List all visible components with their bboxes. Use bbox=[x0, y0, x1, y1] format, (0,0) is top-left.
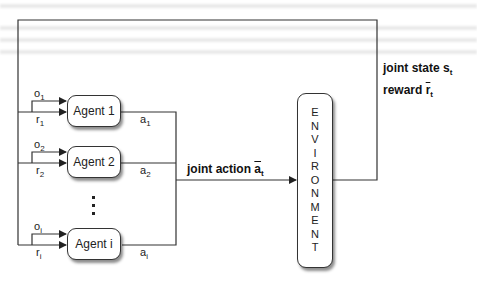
env-letter: M bbox=[310, 201, 319, 215]
act-sub: i bbox=[146, 252, 148, 261]
agent-label: Agent i bbox=[75, 237, 112, 251]
obs-label-1: o1 bbox=[34, 88, 45, 102]
rew-label-i: ri bbox=[36, 247, 41, 261]
joint-action-sub: t bbox=[261, 169, 264, 178]
env-letter: I bbox=[313, 147, 316, 161]
joint-action-label: joint action at bbox=[187, 163, 264, 178]
rew-sub: i bbox=[40, 252, 42, 261]
obs-label-i: oi bbox=[34, 221, 42, 235]
rew-sub: 1 bbox=[40, 119, 44, 128]
joint-state-text: joint state bbox=[383, 61, 443, 75]
rew-label-2: r2 bbox=[36, 165, 44, 179]
env-letter: N bbox=[311, 120, 319, 134]
agent-i-box: Agent i bbox=[67, 228, 121, 260]
act-label-i: ai bbox=[140, 247, 148, 261]
reward-label: reward rt bbox=[383, 84, 433, 99]
env-letter: E bbox=[311, 106, 318, 120]
joint-state-label: joint state st bbox=[383, 62, 452, 77]
env-letter: R bbox=[311, 160, 319, 174]
joint-action-text: joint action bbox=[187, 162, 254, 176]
rew-label-1: r1 bbox=[36, 114, 44, 128]
agent-label: Agent 1 bbox=[73, 104, 114, 118]
environment-box: E N V I R O N M E N T bbox=[297, 93, 333, 268]
env-letter: E bbox=[311, 214, 318, 228]
joint-state-symbol: s bbox=[443, 61, 450, 75]
agent-2-box: Agent 2 bbox=[67, 146, 121, 178]
rew-sub: 2 bbox=[40, 170, 44, 179]
env-letter: T bbox=[312, 241, 319, 255]
obs-sub: 2 bbox=[40, 144, 44, 153]
env-letter: V bbox=[311, 133, 318, 147]
obs-label-2: o2 bbox=[34, 139, 45, 153]
ellipsis-dots bbox=[92, 196, 95, 215]
reward-sub: t bbox=[430, 90, 433, 99]
obs-sub: 1 bbox=[40, 93, 44, 102]
env-letter: N bbox=[311, 187, 319, 201]
act-label-2: a2 bbox=[140, 165, 151, 179]
env-letter: N bbox=[311, 228, 319, 242]
obs-sub: i bbox=[40, 226, 42, 235]
agent-1-box: Agent 1 bbox=[67, 95, 121, 127]
reward-text: reward bbox=[383, 83, 426, 97]
act-label-1: a1 bbox=[140, 114, 151, 128]
act-sub: 2 bbox=[146, 170, 150, 179]
env-letter: O bbox=[311, 174, 320, 188]
agent-label: Agent 2 bbox=[73, 155, 114, 169]
joint-state-sub: t bbox=[450, 68, 453, 77]
act-sub: 1 bbox=[146, 119, 150, 128]
